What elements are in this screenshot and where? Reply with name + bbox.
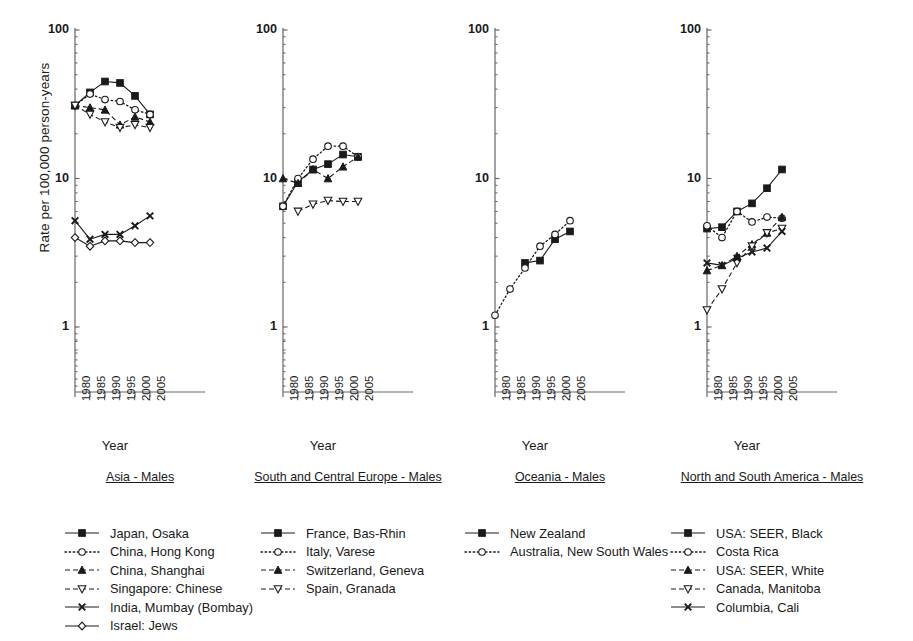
filled-triangle-icon bbox=[258, 561, 298, 579]
series-1 bbox=[704, 166, 786, 232]
legend-label: Singapore: Chinese bbox=[102, 581, 222, 596]
x-tick-label: 1990 bbox=[742, 376, 754, 401]
cross-icon bbox=[62, 598, 102, 616]
legend-item[interactable]: Columbia, Cali bbox=[668, 598, 824, 617]
x-tick-label: 1985 bbox=[95, 376, 107, 401]
legend: Japan, OsakaChina, Hong KongChina, Shang… bbox=[0, 524, 913, 641]
legend-item[interactable]: Australia, New South Wales bbox=[462, 543, 668, 562]
open-diamond-icon bbox=[62, 617, 102, 635]
x-tick-label: 2000 bbox=[560, 376, 572, 401]
legend-label: Switzerland, Geneva bbox=[298, 563, 424, 578]
x-axis-title: Year bbox=[40, 438, 190, 453]
y-tick-label: 1 bbox=[447, 319, 489, 333]
legend-label: Costa Rica bbox=[708, 544, 779, 559]
y-tick-label: 100 bbox=[235, 22, 277, 36]
chart-panel-1: 100101198019851990199520002005YearRate p… bbox=[0, 0, 220, 520]
x-tick-label: 2005 bbox=[575, 376, 587, 401]
series-2 bbox=[704, 208, 786, 241]
legend-item[interactable]: Italy, Varese bbox=[258, 543, 424, 562]
filled-square-icon bbox=[668, 524, 708, 542]
x-tick-label: 1980 bbox=[80, 376, 92, 401]
series-2 bbox=[72, 91, 154, 118]
panel-row: 100101198019851990199520002005YearRate p… bbox=[0, 0, 913, 520]
x-tick-label: 1995 bbox=[545, 376, 557, 401]
x-axis-title: Year bbox=[460, 438, 610, 453]
open-down-triangle-icon bbox=[258, 580, 298, 598]
x-tick-label: 1995 bbox=[757, 376, 769, 401]
legend-label: Columbia, Cali bbox=[708, 600, 799, 615]
x-tick-label: 1985 bbox=[727, 376, 739, 401]
open-circle-icon bbox=[462, 543, 502, 561]
legend-item[interactable]: Switzerland, Geneva bbox=[258, 561, 424, 580]
legend-item[interactable]: Japan, Osaka bbox=[62, 524, 253, 543]
legend-item[interactable]: New Zealand bbox=[462, 524, 668, 543]
open-down-triangle-icon bbox=[62, 580, 102, 598]
plot-area bbox=[0, 0, 220, 400]
legend-item[interactable]: Singapore: Chinese bbox=[62, 580, 253, 599]
legend-label: India, Mumbay (Bombay) bbox=[102, 600, 253, 615]
x-tick-label: 1980 bbox=[712, 376, 724, 401]
series-3 bbox=[71, 102, 154, 128]
open-circle-icon bbox=[62, 543, 102, 561]
legend-label: France, Bas-Rhin bbox=[298, 526, 406, 541]
legend-column-2: France, Bas-RhinItaly, VareseSwitzerland… bbox=[258, 524, 424, 598]
figure-multi-panel-line-charts: 100101198019851990199520002005YearRate p… bbox=[0, 0, 913, 641]
legend-label: Japan, Osaka bbox=[102, 526, 189, 541]
x-tick-label: 2005 bbox=[155, 376, 167, 401]
y-tick-label: 1 bbox=[659, 319, 701, 333]
series-1 bbox=[280, 151, 362, 209]
cross-icon bbox=[668, 598, 708, 616]
legend-item[interactable]: Spain, Granada bbox=[258, 580, 424, 599]
legend-label: Canada, Manitoba bbox=[708, 581, 821, 596]
legend-item[interactable]: China, Hong Kong bbox=[62, 543, 253, 562]
filled-square-icon bbox=[462, 524, 502, 542]
panel-caption: North and South America - Males bbox=[652, 470, 892, 484]
series-2 bbox=[492, 217, 574, 318]
chart-panel-2: 100101198019851990199520002005YearSouth … bbox=[208, 0, 428, 520]
series-4 bbox=[703, 225, 786, 314]
legend-label: China, Shanghai bbox=[102, 563, 205, 578]
open-down-triangle-icon bbox=[668, 580, 708, 598]
x-tick-label: 2005 bbox=[363, 376, 375, 401]
legend-column-4: USA: SEER, BlackCosta RicaUSA: SEER, Whi… bbox=[668, 524, 824, 617]
legend-item[interactable]: USA: SEER, White bbox=[668, 561, 824, 580]
legend-column-3: New ZealandAustralia, New South Wales bbox=[462, 524, 668, 561]
series-4 bbox=[294, 197, 362, 215]
legend-label: USA: SEER, White bbox=[708, 563, 824, 578]
y-tick-label: 10 bbox=[447, 171, 489, 185]
legend-item[interactable]: Israel: Jews bbox=[62, 617, 253, 636]
x-tick-label: 1995 bbox=[125, 376, 137, 401]
filled-triangle-icon bbox=[62, 561, 102, 579]
open-circle-icon bbox=[668, 543, 708, 561]
x-tick-label: 1990 bbox=[318, 376, 330, 401]
legend-label: USA: SEER, Black bbox=[708, 526, 823, 541]
chart-panel-3: 100101198019851990199520002005YearOceani… bbox=[420, 0, 640, 520]
legend-label: Israel: Jews bbox=[102, 618, 178, 633]
legend-item[interactable]: Canada, Manitoba bbox=[668, 580, 824, 599]
plot-area bbox=[632, 0, 852, 400]
filled-square-icon bbox=[258, 524, 298, 542]
series-5 bbox=[72, 213, 154, 243]
legend-item[interactable]: Costa Rica bbox=[668, 543, 824, 562]
y-tick-label: 100 bbox=[659, 22, 701, 36]
series-3 bbox=[279, 153, 362, 187]
legend-item[interactable]: France, Bas-Rhin bbox=[258, 524, 424, 543]
x-tick-label: 1990 bbox=[530, 376, 542, 401]
legend-label: Italy, Varese bbox=[298, 544, 375, 559]
x-tick-label: 1985 bbox=[303, 376, 315, 401]
x-tick-label: 1980 bbox=[288, 376, 300, 401]
plot-area bbox=[420, 0, 640, 400]
series-2 bbox=[280, 143, 362, 210]
y-tick-label: 100 bbox=[447, 22, 489, 36]
y-tick-label: 10 bbox=[235, 171, 277, 185]
y-tick-label: 1 bbox=[27, 319, 69, 333]
y-tick-label: 1 bbox=[235, 319, 277, 333]
series-5 bbox=[704, 228, 786, 269]
y-axis-title: Rate per 100,000 person-years bbox=[37, 28, 52, 288]
legend-item[interactable]: USA: SEER, Black bbox=[668, 524, 824, 543]
legend-item[interactable]: China, Shanghai bbox=[62, 561, 253, 580]
x-tick-label: 1985 bbox=[515, 376, 527, 401]
x-tick-label: 1990 bbox=[110, 376, 122, 401]
legend-label: China, Hong Kong bbox=[102, 544, 215, 559]
legend-item[interactable]: India, Mumbay (Bombay) bbox=[62, 598, 253, 617]
